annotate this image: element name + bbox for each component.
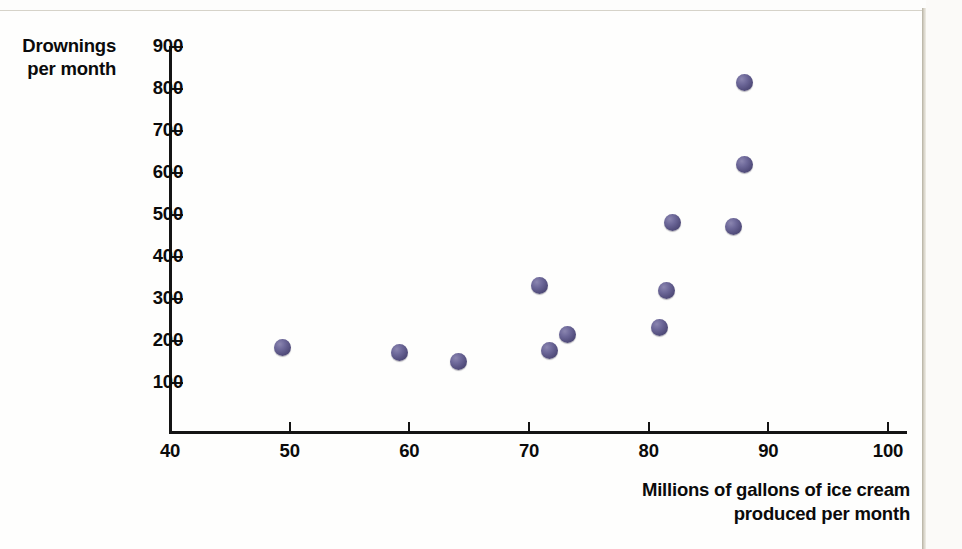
y-axis-tick-label-wrap: 700 bbox=[108, 119, 183, 121]
x-axis-title-line-2: produced per month bbox=[430, 502, 910, 526]
x-axis-tick-label: 60 bbox=[379, 440, 439, 462]
data-point bbox=[450, 353, 467, 370]
y-axis-tick-label-wrap: 800 bbox=[108, 77, 183, 79]
y-axis-tick-label: 700 bbox=[129, 119, 183, 141]
x-axis-tick bbox=[169, 422, 171, 432]
y-axis-tick-label-wrap: 500 bbox=[108, 203, 183, 205]
x-axis-tick bbox=[528, 422, 530, 432]
y-axis-tick-label: 900 bbox=[129, 35, 183, 57]
x-axis-tick-label: 40 bbox=[140, 440, 200, 462]
y-axis-tick-label-wrap: 100 bbox=[108, 371, 183, 373]
y-axis-title: Drownings per month bbox=[8, 34, 116, 80]
data-point bbox=[736, 156, 753, 173]
data-point bbox=[391, 344, 408, 361]
data-point bbox=[274, 339, 291, 356]
y-axis-tick-label-wrap: 300 bbox=[108, 287, 183, 289]
x-axis-tick bbox=[648, 422, 650, 432]
data-point bbox=[658, 282, 675, 299]
scatter-plot: Drownings per month 10020030040050060070… bbox=[0, 0, 962, 549]
y-axis-tick-label: 300 bbox=[129, 287, 183, 309]
x-axis-tick bbox=[767, 422, 769, 432]
data-point bbox=[651, 319, 668, 336]
x-axis-title: Millions of gallons of ice cream produce… bbox=[430, 478, 910, 526]
data-point bbox=[664, 214, 681, 231]
data-point bbox=[725, 218, 742, 235]
x-axis-tick bbox=[289, 422, 291, 432]
y-axis-tick-label: 800 bbox=[129, 77, 183, 99]
y-axis-tick-label: 200 bbox=[129, 329, 183, 351]
y-axis-tick-label-wrap: 600 bbox=[108, 161, 183, 163]
data-point bbox=[531, 277, 548, 294]
x-axis-tick-label: 80 bbox=[619, 440, 679, 462]
x-axis-tick-label: 90 bbox=[738, 440, 798, 462]
y-axis-tick-label-wrap: 900 bbox=[108, 35, 183, 37]
x-axis-tick bbox=[887, 422, 889, 432]
x-axis-tick-label: 50 bbox=[260, 440, 320, 462]
x-axis-tick-label: 70 bbox=[499, 440, 559, 462]
y-axis-tick-label: 100 bbox=[129, 371, 183, 393]
x-axis-title-line-1: Millions of gallons of ice cream bbox=[430, 478, 910, 502]
y-axis-tick-label: 600 bbox=[129, 161, 183, 183]
x-axis-tick-label: 100 bbox=[858, 440, 918, 462]
y-axis-tick-label: 400 bbox=[129, 245, 183, 267]
data-point bbox=[736, 74, 753, 91]
y-axis-title-line-2: per month bbox=[8, 57, 116, 80]
y-axis-tick-label-wrap: 200 bbox=[108, 329, 183, 331]
y-axis-tick-label: 500 bbox=[129, 203, 183, 225]
data-point bbox=[541, 342, 558, 359]
y-axis-title-line-1: Drownings bbox=[8, 34, 116, 57]
x-axis-tick bbox=[408, 422, 410, 432]
data-point bbox=[559, 326, 576, 343]
y-axis-tick-label-wrap: 400 bbox=[108, 245, 183, 247]
x-axis-line bbox=[169, 431, 907, 434]
